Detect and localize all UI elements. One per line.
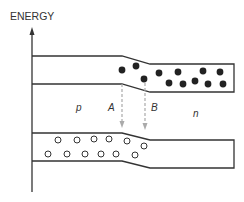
band-diagram: [0, 0, 244, 202]
electrons: [119, 63, 227, 88]
energy-axis-label: ENERGY: [10, 11, 54, 22]
energy-axis: [30, 27, 35, 192]
p-region-label: p: [76, 103, 82, 113]
valence-band: [32, 133, 234, 168]
transition-arrow-a: [120, 84, 125, 128]
holes: [45, 136, 147, 158]
transition-label-a: A: [108, 103, 115, 113]
n-region-label: n: [193, 109, 199, 119]
transition-label-b: B: [151, 103, 158, 113]
